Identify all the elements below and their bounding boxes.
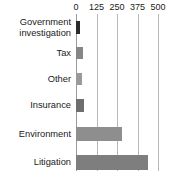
category-label: Tax [0,48,71,59]
category-label: Environment [0,129,71,140]
category-label: Insurance [0,100,71,111]
bar [76,73,82,85]
x-tick-label-0: 0 [73,2,78,13]
bar-row: Tax [0,45,179,72]
bar [76,155,148,170]
bar [76,127,122,141]
bar-row: Insurance [0,97,179,124]
bar-row: Environment [0,124,179,151]
bar [76,47,83,59]
bar-chart: 0 125 250 375 500 Government investigati… [0,0,179,179]
bar-row: Government investigation [0,19,179,46]
bar-row: Litigation [0,152,179,179]
category-label: Litigation [0,157,71,168]
x-tick-label-375: 375 [130,2,145,13]
x-axis-tick-labels: 0 125 250 375 500 [0,2,179,14]
bar-row: Other [0,71,179,98]
x-tick-label-125: 125 [89,2,104,13]
category-label: Government investigation [0,17,71,38]
x-tick-label-500: 500 [150,2,165,13]
bar [76,21,80,34]
bar [76,99,84,112]
category-label: Other [0,74,71,85]
plot-area: Government investigation Tax Other Insur… [0,14,179,179]
x-tick-label-250: 250 [109,2,124,13]
